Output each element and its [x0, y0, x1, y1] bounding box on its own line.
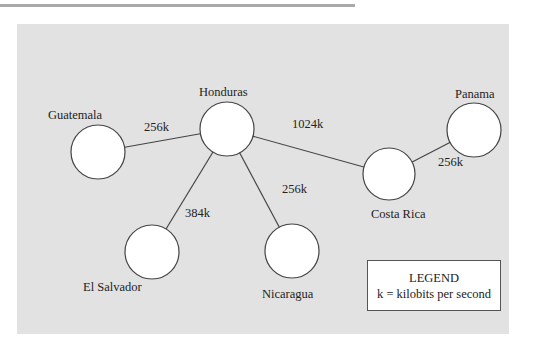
link-bandwidth-label: 256k: [144, 120, 169, 135]
node-label-el_salvador: El Salvador: [83, 280, 142, 295]
legend-box: LEGEND k = kilobits per second: [367, 260, 501, 311]
node-label-panama: Panama: [455, 87, 495, 102]
link-bandwidth-label: 1024k: [292, 117, 323, 132]
link-bandwidth-label: 256k: [438, 155, 463, 170]
link-bandwidth-label: 256k: [282, 182, 307, 197]
node-label-costa_rica: Costa Rica: [371, 207, 426, 222]
link-bandwidth-label: 384k: [185, 206, 210, 221]
node-label-guatemala: Guatemala: [48, 108, 102, 123]
legend-title: LEGEND: [368, 270, 500, 286]
node-nicaragua: [265, 224, 319, 278]
node-el_salvador: [125, 225, 179, 279]
node-guatemala: [71, 125, 125, 179]
node-costa_rica: [363, 148, 415, 200]
node-panama: [447, 103, 501, 157]
node-label-nicaragua: Nicaragua: [262, 287, 313, 302]
legend-text: k = kilobits per second: [368, 286, 500, 302]
node-label-honduras: Honduras: [199, 85, 248, 100]
node-honduras: [200, 102, 254, 156]
